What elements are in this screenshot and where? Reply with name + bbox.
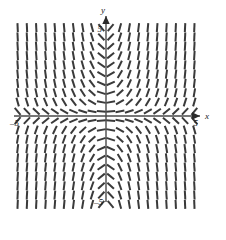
slope-segment	[137, 89, 141, 97]
slope-segment	[184, 126, 187, 135]
slope-segment	[73, 172, 75, 181]
slope-segment	[82, 51, 84, 60]
slope-segment	[64, 172, 65, 181]
slope-segment	[118, 70, 123, 78]
slope-segment	[45, 200, 46, 209]
x-axis-label: x	[204, 111, 209, 121]
slope-segment	[97, 101, 106, 103]
slope-segment	[107, 147, 115, 151]
slope-segment	[73, 51, 75, 60]
slope-segment	[153, 118, 160, 123]
slope-segment	[89, 90, 96, 96]
slope-segment	[166, 51, 167, 60]
slope-segment	[45, 60, 46, 69]
slope-segment	[98, 174, 105, 180]
slope-segment	[147, 172, 148, 181]
slope-segment	[42, 118, 49, 124]
slope-segment	[91, 42, 94, 50]
y-axis-tick-label-bottom: –5	[93, 197, 104, 207]
slope-segment	[138, 51, 140, 60]
slope-segment	[44, 88, 46, 97]
slope-segment	[36, 51, 37, 60]
slope-segment	[17, 79, 18, 88]
slope-segment	[175, 172, 176, 181]
slope-segment	[91, 200, 93, 209]
slope-segment	[27, 172, 28, 181]
slope-segment	[63, 163, 64, 172]
slope-segment	[127, 79, 131, 87]
slope-segment	[45, 51, 46, 60]
slope-segment	[80, 89, 85, 97]
slope-segment	[69, 110, 77, 114]
slope-segment	[117, 145, 122, 152]
slope-segment	[147, 181, 148, 190]
slope-segment	[36, 191, 37, 200]
slope-segment	[82, 191, 84, 200]
slope-segment	[80, 135, 85, 143]
slope-segment	[44, 98, 47, 106]
slope-segment	[36, 172, 37, 181]
slope-segment	[185, 163, 186, 172]
slope-segment	[118, 182, 121, 190]
slope-segment	[127, 144, 131, 152]
slope-segment	[144, 109, 152, 113]
slope-segment	[17, 163, 18, 172]
slope-segment	[54, 32, 55, 41]
slope-segment	[16, 98, 18, 107]
slope-segment	[17, 88, 19, 97]
slope-segment	[91, 23, 93, 32]
slope-segment	[166, 23, 167, 32]
slope-segment	[54, 51, 55, 60]
slope-segment	[106, 120, 115, 121]
slope-segment	[194, 144, 195, 153]
slope-segment	[194, 153, 195, 162]
slope-segment	[36, 32, 37, 41]
slope-segment	[157, 60, 158, 69]
slope-segment	[119, 23, 121, 32]
slope-segment	[36, 181, 37, 190]
slope-segment	[36, 163, 37, 172]
slope-segment	[98, 183, 105, 189]
slope-segment	[184, 144, 185, 153]
x-axis-tick-label-right: 5	[194, 118, 199, 128]
slope-segment	[36, 144, 37, 153]
slope-segment	[33, 118, 40, 124]
x-axis-tick-label-left: –5	[9, 118, 20, 128]
slope-segment	[98, 43, 105, 49]
slope-segment	[175, 79, 176, 88]
slope-segment	[82, 23, 84, 32]
slope-segment	[147, 153, 149, 162]
slope-segment	[137, 135, 141, 143]
slope-segment	[64, 51, 65, 60]
slope-segment	[185, 42, 186, 51]
slope-segment	[54, 172, 55, 181]
slope-segment	[81, 154, 84, 162]
slope-segment	[78, 110, 87, 113]
slope-segment	[194, 70, 195, 79]
slope-segment	[175, 51, 176, 60]
slope-segment	[17, 181, 18, 190]
slope-segment	[45, 153, 46, 162]
slope-segment	[184, 98, 187, 107]
slope-segment	[73, 32, 74, 41]
slope-segment	[54, 153, 55, 162]
slope-segment	[81, 70, 84, 78]
slope-segment	[36, 153, 37, 162]
slope-segment	[157, 51, 158, 60]
slope-segment	[138, 191, 139, 200]
slope-segment	[137, 79, 140, 88]
slope-segment	[128, 172, 130, 181]
slope-segment	[116, 111, 125, 113]
slope-segment	[72, 89, 76, 97]
slope-segment	[90, 70, 95, 78]
slope-segment	[64, 200, 65, 209]
slope-segment	[27, 163, 28, 172]
slope-segment	[128, 70, 131, 78]
slope-segment	[107, 53, 114, 59]
slope-segment	[54, 163, 55, 172]
slope-segment	[116, 100, 124, 104]
slope-segment	[175, 88, 177, 97]
slope-segment	[127, 89, 132, 97]
slope-segment	[157, 42, 158, 51]
slope-segment	[73, 200, 74, 209]
